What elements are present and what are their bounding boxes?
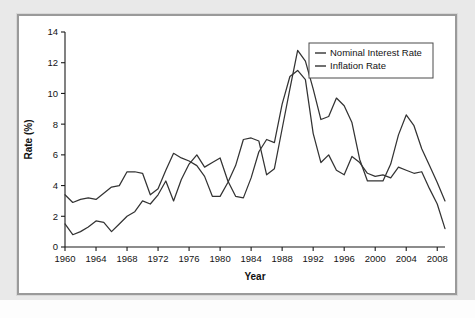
x-tick-label: 1964 bbox=[85, 253, 106, 264]
y-tick-label: 12 bbox=[47, 57, 58, 68]
line-chart-plot: 0246810121419601964196819721976198019841… bbox=[19, 16, 455, 293]
y-tick-label: 14 bbox=[47, 26, 58, 37]
x-tick-label: 1968 bbox=[116, 253, 137, 264]
y-tick-label: 6 bbox=[53, 149, 58, 160]
y-tick-label: 10 bbox=[47, 88, 58, 99]
y-tick-label: 8 bbox=[53, 119, 58, 130]
series-line-inflation-rate bbox=[65, 70, 445, 234]
legend-label: Nominal Interest Rate bbox=[330, 47, 422, 58]
x-tick-label: 1996 bbox=[334, 253, 355, 264]
y-axis-title: Rate (%) bbox=[23, 119, 34, 159]
x-tick-label: 1980 bbox=[210, 253, 231, 264]
x-tick-label: 1976 bbox=[179, 253, 200, 264]
x-tick-label: 2008 bbox=[427, 253, 448, 264]
x-tick-label: 1984 bbox=[241, 253, 262, 264]
y-tick-label: 2 bbox=[53, 211, 58, 222]
x-axis-title: Year bbox=[244, 271, 265, 282]
x-tick-label: 1960 bbox=[54, 253, 75, 264]
x-tick-label: 1992 bbox=[303, 253, 324, 264]
x-tick-label: 1972 bbox=[147, 253, 168, 264]
chart-legend[interactable]: Nominal Interest RateInflation Rate bbox=[309, 43, 433, 78]
x-tick-label: 2000 bbox=[365, 253, 386, 264]
chart-panel: 0246810121419601964196819721976198019841… bbox=[17, 14, 457, 295]
y-tick-label: 0 bbox=[53, 241, 58, 252]
y-tick-label: 4 bbox=[53, 180, 58, 191]
x-tick-label: 1988 bbox=[272, 253, 293, 264]
legend-label: Inflation Rate bbox=[330, 60, 386, 71]
x-tick-label: 2004 bbox=[396, 253, 417, 264]
figure-root: 0246810121419601964196819721976198019841… bbox=[0, 0, 475, 318]
